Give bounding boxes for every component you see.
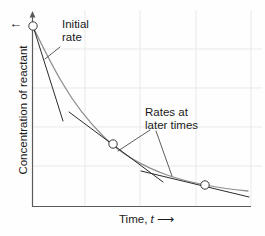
later-rates-annotation: Rates at later times — [145, 106, 198, 132]
data-point-later-2 — [201, 181, 209, 189]
later-rates-line-2: later times — [145, 119, 198, 132]
initial-rate-line-2: rate — [62, 31, 89, 44]
data-point-later-1 — [109, 140, 117, 148]
plot-canvas — [0, 0, 265, 236]
x-axis-label-variable: t — [151, 213, 154, 225]
data-point-initial — [29, 22, 37, 30]
x-axis-label: Time, t ⟶ — [119, 212, 173, 226]
y-axis-label: Concentration of reactant — [17, 25, 29, 195]
initial-rate-line-1: Initial — [62, 18, 89, 31]
x-axis-arrow-icon: ⟶ — [157, 213, 173, 225]
plot-background — [0, 0, 265, 236]
initial-rate-annotation: Initial rate — [62, 18, 89, 44]
x-axis-label-text: Time, — [119, 213, 147, 225]
kinetics-rate-figure: Initial rate Rates at later times ↑ Conc… — [0, 0, 265, 236]
later-rates-line-1: Rates at — [145, 106, 198, 119]
